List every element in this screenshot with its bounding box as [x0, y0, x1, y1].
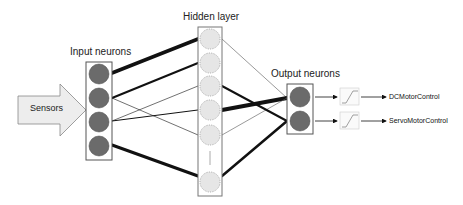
activation-function-icon [340, 112, 359, 129]
activation-function-icon [340, 88, 359, 105]
output-neurons-label: Output neurons [271, 68, 340, 79]
hidden-output-connections [222, 39, 287, 176]
input-neurons-label: Input neurons [70, 46, 131, 57]
servo-motor-control-label: ServoMotorControl [389, 117, 448, 124]
hidden-layer-label: Hidden layer [183, 11, 239, 22]
neural-network-diagram [0, 0, 463, 205]
sensors-label: Sensors [30, 103, 63, 113]
dc-motor-control-label: DCMotorControl [389, 93, 440, 100]
input-hidden-connections [112, 39, 198, 176]
